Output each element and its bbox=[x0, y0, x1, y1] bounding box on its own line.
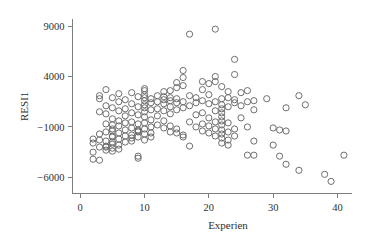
data-point bbox=[238, 90, 244, 96]
data-point bbox=[238, 115, 244, 121]
data-point bbox=[322, 171, 328, 177]
data-point bbox=[283, 161, 289, 167]
data-point bbox=[122, 133, 128, 139]
data-point bbox=[225, 129, 231, 135]
data-point bbox=[283, 128, 289, 134]
data-point bbox=[251, 138, 257, 144]
x-axis-title: Experien bbox=[208, 219, 248, 231]
data-point bbox=[141, 120, 147, 126]
data-point bbox=[167, 123, 173, 129]
data-point bbox=[206, 101, 212, 107]
data-point bbox=[148, 134, 154, 140]
data-point bbox=[154, 99, 160, 105]
data-point bbox=[116, 146, 122, 152]
data-point bbox=[116, 136, 122, 142]
data-point bbox=[328, 178, 334, 184]
data-point bbox=[251, 152, 257, 158]
data-point bbox=[186, 31, 192, 37]
data-point bbox=[135, 121, 141, 127]
data-point bbox=[122, 113, 128, 119]
data-point bbox=[103, 103, 109, 109]
data-point bbox=[129, 125, 135, 131]
data-point bbox=[148, 117, 154, 123]
data-point bbox=[129, 101, 135, 107]
data-point bbox=[122, 97, 128, 103]
data-point bbox=[103, 87, 109, 93]
data-point bbox=[180, 99, 186, 105]
data-point bbox=[135, 94, 141, 100]
data-point bbox=[199, 121, 205, 127]
data-point bbox=[180, 67, 186, 73]
data-point bbox=[90, 156, 96, 162]
data-point bbox=[206, 115, 212, 121]
data-point bbox=[244, 124, 250, 130]
data-point bbox=[161, 101, 167, 107]
y-tick-label-0: 9000 bbox=[44, 21, 65, 32]
data-point bbox=[206, 130, 212, 136]
data-point bbox=[296, 93, 302, 99]
data-point bbox=[186, 119, 192, 125]
data-point bbox=[231, 71, 237, 77]
data-point bbox=[206, 80, 212, 86]
data-point bbox=[154, 113, 160, 119]
data-point bbox=[116, 99, 122, 105]
data-point bbox=[90, 140, 96, 146]
data-points-group bbox=[90, 26, 347, 184]
data-point bbox=[135, 112, 141, 118]
data-point bbox=[116, 91, 122, 97]
data-point bbox=[296, 167, 302, 173]
data-point bbox=[103, 111, 109, 117]
data-point bbox=[225, 95, 231, 101]
data-point bbox=[193, 124, 199, 130]
data-point bbox=[109, 116, 115, 122]
data-point bbox=[212, 99, 218, 105]
data-point bbox=[212, 126, 218, 132]
data-point bbox=[199, 110, 205, 116]
data-point bbox=[116, 108, 122, 114]
data-point bbox=[199, 98, 205, 104]
y-tick-label-1: 4000 bbox=[44, 71, 65, 82]
x-tick-labels: 010203040 bbox=[78, 202, 343, 213]
data-point bbox=[96, 157, 102, 163]
data-point bbox=[167, 111, 173, 117]
data-point bbox=[96, 137, 102, 143]
data-point bbox=[122, 106, 128, 112]
y-tick-labels: 90004000−1000−6000 bbox=[38, 21, 65, 183]
data-point bbox=[174, 107, 180, 113]
data-point bbox=[225, 89, 231, 95]
data-point bbox=[129, 110, 135, 116]
data-point bbox=[199, 87, 205, 93]
data-point bbox=[96, 144, 102, 150]
data-point bbox=[180, 83, 186, 89]
y-tick-label-2: −1000 bbox=[38, 122, 65, 133]
data-point bbox=[244, 99, 250, 105]
data-point bbox=[180, 105, 186, 111]
data-point bbox=[154, 93, 160, 99]
data-point bbox=[283, 105, 289, 111]
data-point bbox=[109, 95, 115, 101]
data-point bbox=[161, 125, 167, 131]
data-point bbox=[277, 153, 283, 159]
data-point bbox=[135, 104, 141, 110]
y-tick-label-3: −6000 bbox=[38, 172, 65, 183]
data-point bbox=[167, 104, 173, 110]
data-point bbox=[193, 112, 199, 118]
data-point bbox=[96, 109, 102, 115]
data-point bbox=[231, 126, 237, 132]
data-point bbox=[186, 143, 192, 149]
data-point bbox=[251, 107, 257, 113]
data-point bbox=[225, 120, 231, 126]
y-axis-title: RESI1 bbox=[18, 92, 30, 121]
data-point bbox=[186, 93, 192, 99]
data-point bbox=[251, 98, 257, 104]
data-point bbox=[212, 119, 218, 125]
data-point bbox=[122, 127, 128, 133]
data-point bbox=[238, 103, 244, 109]
x-tick-label-3: 30 bbox=[268, 202, 279, 213]
data-point bbox=[148, 124, 154, 130]
data-point bbox=[277, 127, 283, 133]
data-point bbox=[231, 56, 237, 62]
data-point bbox=[341, 152, 347, 158]
axes-group bbox=[73, 19, 352, 193]
data-point bbox=[154, 122, 160, 128]
